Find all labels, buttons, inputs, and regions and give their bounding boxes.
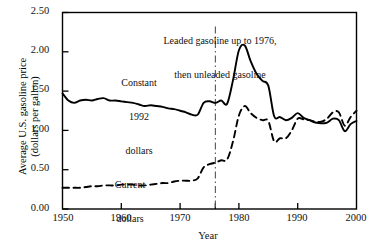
y-tick-label-1.50: 1.50 [24, 83, 56, 95]
series-label-current-dollars: Current dollars [90, 157, 170, 247]
y-tick-label-2.50: 2.50 [24, 5, 56, 17]
y-tick-label-2.00: 2.00 [24, 44, 56, 56]
x-tick-label-1990: 1990 [280, 212, 314, 224]
series-label-constant-line1: Constant [98, 77, 180, 88]
series-label-constant-line3: dollars [98, 145, 180, 156]
x-tick-label-2000: 2000 [339, 212, 373, 224]
y-axis-ticks [63, 13, 69, 210]
gasoline-price-figure: Average U.S. gasoline price (dollars per… [0, 0, 374, 252]
y-axis-label: Average U.S. gasoline price (dollars per… [17, 31, 42, 201]
y-tick-label-0.50: 0.50 [24, 162, 56, 174]
y-axis-label-line1: Average U.S. gasoline price [17, 31, 29, 201]
series-label-constant-line2: 1992 [98, 111, 180, 122]
x-tick-label-1950: 1950 [46, 212, 80, 224]
annotation-leaded-note-line1: Leaded gasoline up to 1976, [141, 35, 299, 46]
y-axis-label-line2: (dollars per gallon) [29, 31, 41, 201]
x-axis-title: Year [185, 230, 231, 242]
x-tick-label-1980: 1980 [222, 212, 256, 224]
series-label-current-line1: Current [90, 179, 170, 190]
y-tick-label-1.00: 1.00 [24, 123, 56, 135]
series-label-current-line2: dollars [90, 213, 170, 224]
